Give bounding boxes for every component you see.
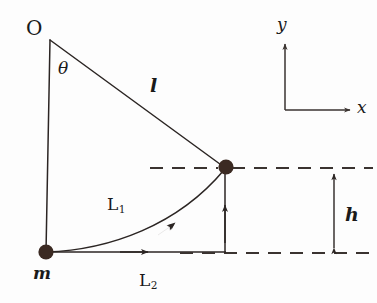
bob-dot <box>218 159 233 174</box>
path-l1-curve <box>46 170 224 252</box>
string-length-label: l <box>150 76 157 95</box>
path-l1-direction-arrow-stub <box>158 224 174 235</box>
pendulum-vertical-reference <box>46 40 50 252</box>
axis-x-label: x <box>357 99 367 116</box>
mass-dot <box>38 244 53 259</box>
diagram-canvas <box>0 0 377 303</box>
pivot-label: O <box>26 18 42 38</box>
path-l1-direction-arrow <box>140 223 175 242</box>
path-l1-label-subscript: 1 <box>119 203 126 215</box>
pendulum-diagram: O θ l m L1 L2 h x y <box>0 0 377 303</box>
height-label: h <box>345 205 359 224</box>
pendulum-string <box>50 40 224 167</box>
angle-label: θ <box>58 60 68 77</box>
path-l2-label: L2 <box>139 272 158 290</box>
axis-y-label: y <box>277 16 287 33</box>
mass-label: m <box>33 265 51 282</box>
path-l2-label-text: L <box>139 270 150 290</box>
path-l1-label: L1 <box>107 196 126 214</box>
path-l1-label-text: L <box>107 194 118 214</box>
path-l2-label-subscript: 2 <box>151 279 158 291</box>
